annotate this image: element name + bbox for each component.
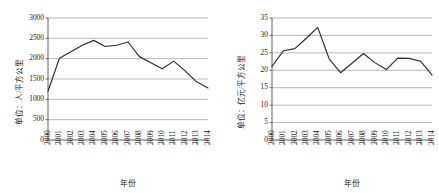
y-tick-label-1500: 1500 <box>29 74 44 83</box>
x-tick-label-2006: 2006 <box>111 130 120 145</box>
x-tick-label-2002: 2002 <box>66 130 75 145</box>
y-tick-label-20: 20 <box>261 65 269 74</box>
chart-panel-population-density: 0500100015002000250030002000200120022003… <box>0 0 219 193</box>
x-tick-label-2005: 2005 <box>324 130 333 145</box>
x-tick-label-2012: 2012 <box>180 130 189 145</box>
x-tick-label-2000: 2000 <box>43 130 52 145</box>
y-tick-label-10: 10 <box>261 100 269 109</box>
y-tick-label-2000: 2000 <box>29 53 44 62</box>
chart-panel-economic-density: 0510152025303520002001200220032004200520… <box>220 0 439 193</box>
y-axis-title: 单位：人/平方公里 <box>14 59 24 125</box>
x-axis-title: 年份 <box>120 178 136 188</box>
x-tick-label-2002: 2002 <box>290 130 299 145</box>
x-tick-label-2009: 2009 <box>370 130 379 145</box>
x-tick-label-2010: 2010 <box>381 130 390 145</box>
y-tick-label-5: 5 <box>264 117 268 126</box>
data-series-line <box>272 27 432 75</box>
x-tick-label-2008: 2008 <box>358 130 367 145</box>
x-tick-label-2005: 2005 <box>100 130 109 145</box>
y-tick-label-1000: 1000 <box>29 94 44 103</box>
y-tick-label-500: 500 <box>33 114 44 123</box>
x-tick-label-2010: 2010 <box>157 130 166 145</box>
population-density-line-chart: 0500100015002000250030002000200120022003… <box>0 0 219 193</box>
y-tick-label-35: 35 <box>261 13 269 22</box>
y-tick-label-2500: 2500 <box>29 33 44 42</box>
x-tick-label-2000: 2000 <box>267 130 276 145</box>
x-tick-label-2006: 2006 <box>335 130 344 145</box>
y-tick-label-3000: 3000 <box>29 13 44 22</box>
y-axis-title: 单位：亿元/平方公里 <box>236 55 246 129</box>
x-tick-label-2013: 2013 <box>191 130 200 145</box>
x-tick-label-2014: 2014 <box>427 130 436 145</box>
x-tick-label-2004: 2004 <box>312 130 321 145</box>
x-axis-title: 年份 <box>344 178 360 188</box>
dual-line-chart-figure: 0500100015002000250030002000200120022003… <box>0 0 439 193</box>
x-tick-label-2013: 2013 <box>415 130 424 145</box>
x-tick-label-2012: 2012 <box>404 130 413 145</box>
x-tick-label-2003: 2003 <box>77 130 86 145</box>
x-tick-label-2001: 2001 <box>54 130 63 145</box>
x-tick-label-2014: 2014 <box>203 130 212 145</box>
x-tick-label-2004: 2004 <box>88 130 97 145</box>
x-tick-label-2008: 2008 <box>134 130 143 145</box>
y-tick-label-15: 15 <box>261 82 269 91</box>
y-tick-label-30: 30 <box>261 30 269 39</box>
x-tick-label-2007: 2007 <box>347 130 356 145</box>
x-tick-label-2011: 2011 <box>392 130 401 145</box>
x-tick-label-2009: 2009 <box>146 130 155 145</box>
x-tick-label-2011: 2011 <box>168 130 177 145</box>
x-tick-label-2001: 2001 <box>278 130 287 145</box>
data-series-line <box>48 40 208 91</box>
y-tick-label-25: 25 <box>261 48 269 57</box>
x-tick-label-2003: 2003 <box>301 130 310 145</box>
economic-density-line-chart: 0510152025303520002001200220032004200520… <box>220 0 439 193</box>
x-tick-label-2007: 2007 <box>123 130 132 145</box>
